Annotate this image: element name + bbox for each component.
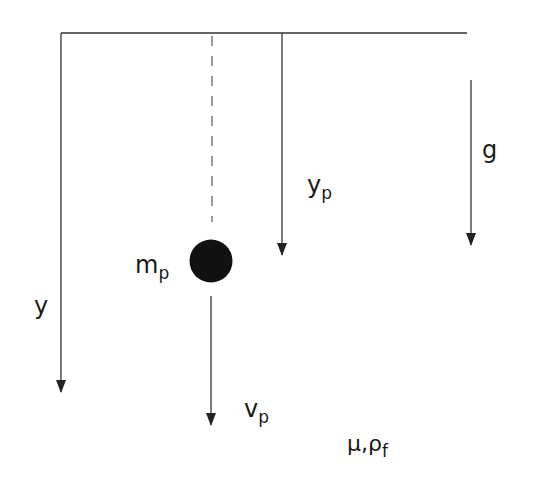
label-particle-mass: mp <box>135 253 169 282</box>
label-velocity: vp <box>244 397 269 426</box>
velocity-arrowhead <box>206 413 216 426</box>
diagram-canvas <box>0 0 542 492</box>
particle <box>190 240 233 283</box>
label-mass-sub: p <box>158 263 169 283</box>
particle-position-arrowhead <box>277 243 287 256</box>
label-particle-position: yp <box>307 173 332 202</box>
label-fluid-properties: μ,ρf <box>347 433 388 460</box>
label-particle-position-main: y <box>307 171 321 199</box>
y-axis-arrowhead <box>56 380 66 393</box>
label-gravity: g <box>482 138 497 162</box>
gravity-arrowhead <box>466 233 476 246</box>
label-fluid-main: μ,ρ <box>347 431 382 456</box>
label-fluid-sub: f <box>382 441 388 461</box>
label-particle-position-sub: p <box>321 183 332 203</box>
label-y-axis: y <box>34 294 48 318</box>
label-velocity-main: v <box>244 395 258 423</box>
label-velocity-sub: p <box>258 407 269 427</box>
label-mass-main: m <box>135 251 158 279</box>
